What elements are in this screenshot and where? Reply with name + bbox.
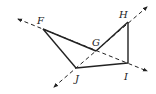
point-label-H: H [118, 9, 128, 20]
segment-GH [96, 22, 128, 51]
point-label-G: G [92, 37, 100, 48]
point-label-F: F [36, 15, 45, 26]
segment-JI [76, 63, 128, 68]
segment-FG [43, 29, 96, 51]
geometry-diagram: FGHIJ [0, 0, 156, 94]
segment-FJ [43, 29, 76, 68]
point-label-J: J [73, 73, 80, 84]
point-label-I: I [123, 71, 129, 82]
